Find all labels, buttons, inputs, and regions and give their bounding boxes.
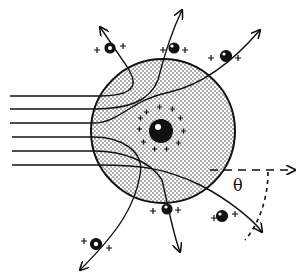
angle-label: θ [233, 176, 243, 195]
diagram-canvas [0, 0, 307, 280]
alpha-particle [160, 43, 188, 53]
scattering-diagram: θ [0, 0, 307, 280]
alpha-particle [94, 43, 126, 53]
alpha-particle [150, 204, 181, 214]
alpha-particle [208, 51, 241, 62]
alpha-particle [211, 211, 238, 222]
angle-arc [245, 172, 268, 240]
incoming-beam [10, 96, 100, 165]
